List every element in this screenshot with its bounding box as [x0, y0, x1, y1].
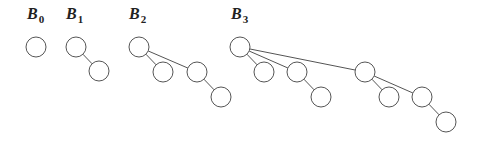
tree-b1: B1 — [65, 5, 109, 81]
tree-node — [311, 87, 331, 107]
tree-edge — [429, 104, 439, 115]
tree-edge — [372, 79, 382, 90]
tree-node — [26, 37, 46, 57]
tree-node — [230, 37, 250, 57]
tree-node — [254, 62, 274, 82]
binomial-trees-diagram: B0B1B2B3 — [0, 0, 479, 145]
tree-node — [66, 37, 86, 57]
tree-node — [187, 62, 207, 82]
tree-node — [355, 62, 375, 82]
tree-label: B3 — [230, 5, 249, 25]
tree-b0: B0 — [26, 5, 46, 57]
tree-node — [153, 62, 173, 82]
tree-b3: B3 — [230, 5, 456, 132]
tree-node — [379, 87, 399, 107]
tree-node — [129, 37, 149, 57]
tree-edge — [204, 79, 214, 90]
tree-label: B1 — [65, 5, 83, 25]
tree-node — [412, 87, 432, 107]
tree-label: B0 — [26, 5, 45, 25]
tree-b2: B2 — [128, 5, 231, 107]
tree-node — [287, 62, 307, 82]
tree-node — [211, 87, 231, 107]
tree-edge — [304, 79, 314, 90]
tree-edge — [83, 54, 92, 64]
tree-edge — [146, 54, 156, 65]
tree-node — [436, 112, 456, 132]
tree-edge — [247, 54, 257, 65]
tree-node — [89, 61, 109, 81]
tree-label: B2 — [128, 5, 147, 25]
